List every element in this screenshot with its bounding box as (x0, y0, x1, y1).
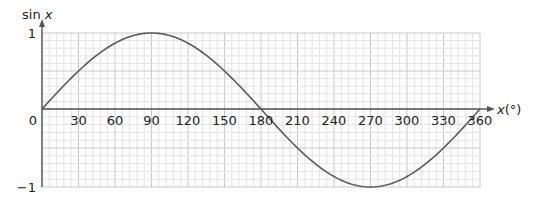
x-axis-label: x(°) (496, 102, 521, 117)
y-axis-label: sin x (22, 7, 53, 22)
x-tick-label: 60 (107, 113, 124, 128)
x-tick-label: 90 (143, 113, 160, 128)
x-tick-label: 180 (249, 113, 274, 128)
x-tick-label: 210 (285, 113, 310, 128)
x-axis-arrow-icon (487, 106, 495, 112)
chart-canvas: 0306090120150180210240270300330360−11 si… (0, 0, 539, 197)
tick-labels: 0306090120150180210240270300330360−11 (17, 26, 493, 195)
x-tick-label: 270 (358, 113, 383, 128)
y-tick-label: 1 (28, 26, 36, 41)
y-tick-label: −1 (17, 180, 36, 195)
x-tick-label: 240 (322, 113, 347, 128)
x-tick-label: 0 (29, 113, 37, 128)
x-tick-label: 150 (212, 113, 237, 128)
x-tick-label: 360 (468, 113, 493, 128)
x-tick-label: 120 (176, 113, 201, 128)
x-tick-label: 30 (70, 113, 87, 128)
x-tick-label: 330 (431, 113, 456, 128)
x-tick-label: 300 (395, 113, 420, 128)
